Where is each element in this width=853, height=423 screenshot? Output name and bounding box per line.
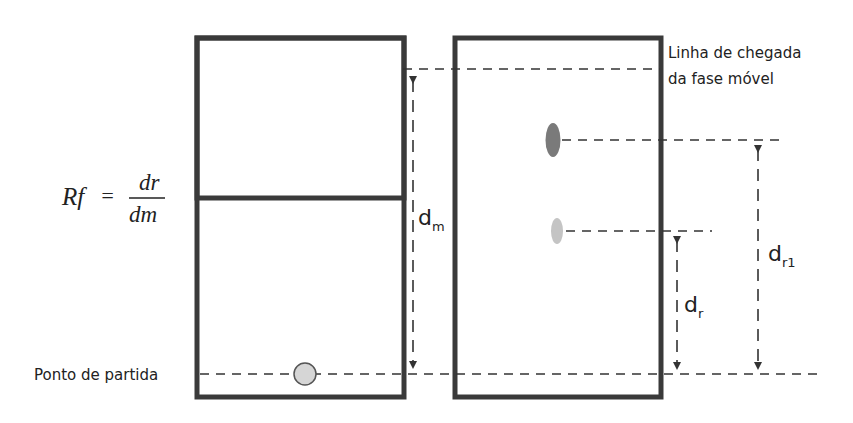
formula-numerator: dr [139,170,161,195]
dr1-label: dr1 [768,241,796,270]
formula-equals: = [100,183,115,208]
tlc-plate-left [197,38,404,198]
start-spot [294,363,316,385]
chromatography-diagram: Rf = dr dm dm dr dr1 Linha de chegada da… [0,0,853,423]
dm-label: dm [418,205,445,234]
tlc-plate-right [455,38,661,397]
spot-dark [546,123,561,157]
start-point-label: Ponto de partida [34,366,158,384]
tlc-plate-left-frame [197,38,404,397]
dr-label: dr [684,292,704,321]
finish-line-label-1: Linha de chegada [668,44,801,62]
rf-formula: Rf = dr dm [61,170,165,227]
spot-light [551,218,563,244]
finish-line-label-2: da fase móvel [668,70,774,88]
formula-denominator: dm [129,202,157,227]
formula-lhs: Rf [61,183,87,210]
